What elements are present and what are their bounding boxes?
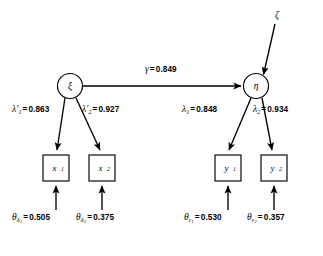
- edge-label-theta-delta2: θδ2=0.375: [76, 212, 114, 224]
- edge-label-lambda-x2: λ′2=0.927: [82, 104, 119, 115]
- gamma-equals: =: [149, 65, 156, 74]
- edge-label-lambda-y1: λ1=0.848: [182, 104, 217, 115]
- theta-epsilon2-value: 0.357: [264, 213, 285, 222]
- node-y1-label: y: [224, 163, 229, 173]
- edge-label-lambda-x1: λ′1=0.863: [12, 104, 49, 115]
- edge-label-gamma: γ=0.849: [145, 64, 177, 74]
- path-lambda-x1: [57, 98, 65, 150]
- path-zeta-to-eta: [264, 24, 276, 75]
- edge-label-theta-epsilon2: θε2=0.357: [247, 212, 285, 224]
- node-y2-label: y: [270, 163, 275, 173]
- node-y2-sublabel: 2: [279, 166, 282, 172]
- theta-delta2-value: 0.375: [93, 213, 114, 222]
- edge-label-theta-epsilon1: θε1=0.530: [184, 212, 222, 224]
- theta-epsilon1-value: 0.530: [201, 213, 222, 222]
- node-eta-label: η: [254, 81, 259, 91]
- node-x2-sublabel: 2: [107, 166, 110, 172]
- lambda-y1-value: 0.848: [196, 105, 217, 114]
- node-x1-sublabel: 1: [61, 166, 64, 172]
- path-lambda-y1: [229, 98, 251, 150]
- lambda-y2-value: 0.934: [267, 105, 288, 114]
- edge-label-lambda-y2: λ2=0.934: [253, 104, 288, 115]
- theta-delta1-value: 0.505: [29, 213, 50, 222]
- edge-label-theta-delta1: θδ1=0.505: [12, 212, 50, 224]
- lambda-x2-value: 0.927: [98, 105, 119, 114]
- node-y1-sublabel: 1: [233, 166, 236, 172]
- node-x2-label: x: [98, 163, 103, 173]
- lambda-x1-value: 0.863: [28, 105, 49, 114]
- theta-epsilon2-equals: =: [257, 213, 264, 222]
- node-x1-label: x: [52, 163, 57, 173]
- gamma-value: 0.849: [156, 65, 177, 74]
- sem-path-diagram: ξ η ζ x 1 x 2 y 1 y 2 γ=0.849 λ′1=0.863 …: [0, 0, 323, 256]
- theta-epsilon1-equals: =: [194, 213, 201, 222]
- node-zeta-label: ζ: [275, 10, 280, 21]
